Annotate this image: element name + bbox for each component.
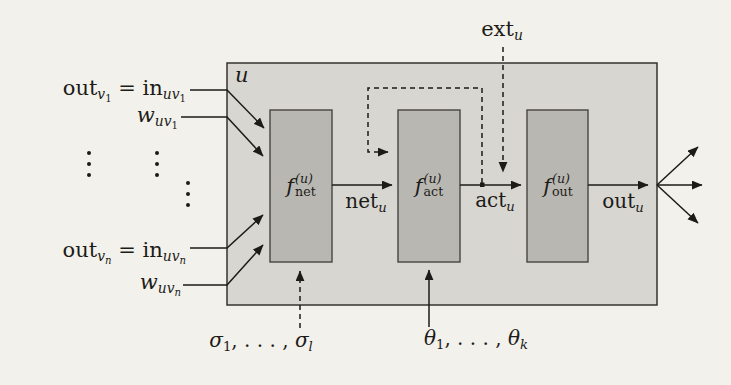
weight-label-top: wuv1 xyxy=(137,103,178,132)
vertical-ellipsis-out xyxy=(87,151,91,177)
unit-label: u xyxy=(235,63,249,87)
activation-function-label: f(u)act xyxy=(398,110,460,262)
external-input-label: extu xyxy=(481,17,523,44)
sigma-parameters-label: σ1, . . . , σl xyxy=(209,329,313,354)
out-signal-label: outu xyxy=(602,190,643,215)
theta-parameters-label: θ1, . . . , θk xyxy=(424,327,528,352)
weight-label-bottom: wuvn xyxy=(140,270,181,299)
neuron-structure-figure: outv1 = inuv1 wuv1 outvn = inuvn wuvn u … xyxy=(0,0,731,385)
input-label-top: outv1 = inuv1 xyxy=(63,76,186,105)
input-label-bottom: outvn = inuvn xyxy=(63,238,186,267)
act-signal-label: actu xyxy=(475,189,515,214)
vertical-ellipsis-w xyxy=(155,151,159,177)
fanout-arrow-up xyxy=(657,147,698,185)
act-junction-dot xyxy=(480,183,485,188)
output-function-label: f(u)out xyxy=(527,110,589,262)
vertical-ellipsis-lines xyxy=(186,181,190,207)
net-function-label: f(u)net xyxy=(270,110,332,262)
net-signal-label: netu xyxy=(345,190,386,215)
fanout-arrow-down xyxy=(657,185,698,223)
